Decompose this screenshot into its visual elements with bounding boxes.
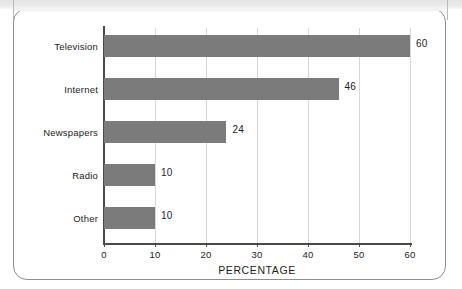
bar-value-label: 10 xyxy=(161,210,173,221)
x-tick-label-10: 10 xyxy=(150,249,161,260)
bar-row: 24 xyxy=(104,121,410,143)
bar-internet[interactable] xyxy=(104,78,339,100)
page-right-edge xyxy=(447,0,448,20)
gridline-60 xyxy=(410,28,411,243)
category-label-other: Other xyxy=(6,213,98,224)
category-label-radio: Radio xyxy=(6,170,98,181)
category-label-newspapers: Newspapers xyxy=(6,127,98,138)
bar-television[interactable] xyxy=(104,35,410,57)
bar-newspapers[interactable] xyxy=(104,121,226,143)
x-tick-label-20: 20 xyxy=(201,249,212,260)
x-axis-title: PERCENTAGE xyxy=(104,264,410,276)
x-tick-label-40: 40 xyxy=(303,249,314,260)
bar-value-label: 24 xyxy=(232,124,244,135)
x-tick-mark-60 xyxy=(410,243,411,247)
category-label-group: TelevisionInternetNewspapersRadioOther xyxy=(6,28,98,243)
x-tick-mark-50 xyxy=(359,243,360,247)
bar-value-label: 46 xyxy=(345,81,357,92)
x-tick-mark-20 xyxy=(206,243,207,247)
x-tick-mark-10 xyxy=(155,243,156,247)
bar-row: 60 xyxy=(104,35,410,57)
bar-row: 46 xyxy=(104,78,410,100)
frame-top-scan-fade xyxy=(14,8,445,11)
bar-row: 10 xyxy=(104,207,410,229)
plot-area: 6046241010 xyxy=(104,28,410,243)
bar-value-label: 60 xyxy=(416,38,428,49)
x-tick-mark-40 xyxy=(308,243,309,247)
x-tick-mark-30 xyxy=(257,243,258,247)
x-tick-label-30: 30 xyxy=(252,249,263,260)
bar-radio[interactable] xyxy=(104,164,155,186)
x-tick-mark-0 xyxy=(104,243,105,247)
x-tick-label-0: 0 xyxy=(101,249,106,260)
category-label-internet: Internet xyxy=(6,84,98,95)
bar-row: 10 xyxy=(104,164,410,186)
x-tick-label-60: 60 xyxy=(405,249,416,260)
x-tick-label-50: 50 xyxy=(354,249,365,260)
bar-value-label: 10 xyxy=(161,167,173,178)
category-label-television: Television xyxy=(6,41,98,52)
bar-other[interactable] xyxy=(104,207,155,229)
